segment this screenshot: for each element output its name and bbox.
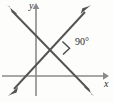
x-axis bbox=[2, 72, 109, 80]
angle-label: 90° bbox=[75, 37, 89, 47]
y-axis bbox=[33, 3, 40, 96]
geometry-figure: y x 90° bbox=[0, 0, 114, 102]
x-axis-label: x bbox=[104, 79, 108, 89]
figure-canvas bbox=[0, 0, 114, 102]
right-angle-marker bbox=[62, 41, 69, 54]
y-axis-label: y bbox=[29, 1, 33, 11]
